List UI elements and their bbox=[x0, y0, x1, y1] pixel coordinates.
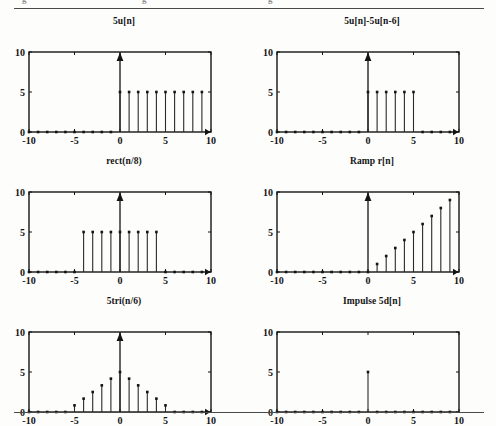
clipped-header-fragment-3: g bbox=[268, 0, 273, 4]
plot-grid: 5u[n] 0510-10-50510 5u[n]-5u[n-6] 0510-1… bbox=[0, 14, 496, 426]
stem-marker bbox=[294, 271, 297, 274]
stem-marker bbox=[82, 231, 85, 234]
x-tick-label: -10 bbox=[22, 275, 35, 286]
stem-marker bbox=[146, 231, 149, 234]
stem-marker bbox=[28, 271, 31, 274]
stem-marker bbox=[46, 131, 49, 134]
stem-plot-plot-5un: 0510-10-50510 bbox=[0, 28, 248, 154]
figure-page: g g g 5u[n] 0510-10-50510 5u[n]-5u[n-6] … bbox=[0, 0, 496, 426]
plot-canvas-1: 0510-10-50510 bbox=[248, 28, 496, 158]
stem-marker bbox=[312, 131, 315, 134]
stem-marker bbox=[430, 215, 433, 218]
stem-marker bbox=[55, 271, 58, 274]
plot-row-3: 5tri(n/6) 0510-10-50510 Impulse 5d[n] 05… bbox=[0, 294, 496, 426]
stem-series bbox=[276, 371, 452, 414]
stem-marker bbox=[376, 91, 379, 94]
stem-plot-plot-5un-minus-5un6: 0510-10-50510 bbox=[248, 28, 496, 154]
stem-marker bbox=[46, 271, 49, 274]
stem-marker bbox=[146, 391, 149, 394]
x-tick-label: 5 bbox=[411, 415, 416, 426]
stem-marker bbox=[164, 404, 167, 407]
stem-series bbox=[28, 371, 204, 414]
stem-marker bbox=[403, 239, 406, 242]
stem-marker bbox=[421, 223, 424, 226]
x-tick-label: 5 bbox=[163, 415, 168, 426]
y-tick-label: 5 bbox=[268, 367, 273, 378]
plot-cell-5: Impulse 5d[n] 0510-10-50510 bbox=[248, 294, 496, 426]
x-tick-label: -5 bbox=[318, 275, 326, 286]
stem-marker bbox=[28, 131, 31, 134]
stem-marker bbox=[73, 404, 76, 407]
stem-plot-plot-ramp-rn: 0510-10-50510 bbox=[248, 168, 496, 294]
plot-title-2: rect(n/8) bbox=[0, 156, 248, 166]
stem-marker bbox=[367, 271, 370, 274]
stem-marker bbox=[430, 131, 433, 134]
stem-marker bbox=[394, 91, 397, 94]
stem-series bbox=[276, 91, 452, 134]
stem-marker bbox=[321, 271, 324, 274]
stem-marker bbox=[276, 131, 279, 134]
plot-title-5: Impulse 5d[n] bbox=[248, 296, 496, 306]
plot-cell-3: Ramp r[n] 0510-10-50510 bbox=[248, 154, 496, 294]
x-tick-label: 5 bbox=[411, 135, 416, 146]
stem-marker bbox=[285, 271, 288, 274]
stem-marker bbox=[155, 397, 158, 400]
stem-marker bbox=[146, 91, 149, 94]
stem-marker bbox=[82, 131, 85, 134]
stem-marker bbox=[376, 263, 379, 266]
x-tick-label: -10 bbox=[270, 275, 283, 286]
stem-marker bbox=[339, 271, 342, 274]
plot-cell-2: rect(n/8) 0510-10-50510 bbox=[0, 154, 248, 294]
stem-marker bbox=[73, 131, 76, 134]
stem-marker bbox=[110, 377, 113, 380]
stem-marker bbox=[403, 91, 406, 94]
y-tick-label: 10 bbox=[263, 327, 273, 338]
stem-marker bbox=[128, 377, 131, 380]
stem-marker bbox=[110, 231, 113, 234]
x-tick-label: -10 bbox=[22, 415, 35, 426]
stem-marker bbox=[367, 91, 370, 94]
y-tick-label: 5 bbox=[20, 227, 25, 238]
stem-marker bbox=[82, 397, 85, 400]
stem-series bbox=[28, 91, 204, 134]
stem-marker bbox=[285, 131, 288, 134]
stem-marker bbox=[128, 231, 131, 234]
y-tick-label: 5 bbox=[20, 367, 25, 378]
stem-marker bbox=[303, 131, 306, 134]
y-tick-label: 5 bbox=[268, 87, 273, 98]
stem-marker bbox=[164, 271, 167, 274]
stem-marker bbox=[330, 271, 333, 274]
stem-marker bbox=[449, 199, 452, 202]
x-tick-label: 10 bbox=[454, 415, 464, 426]
stem-marker bbox=[294, 131, 297, 134]
stem-plot-plot-5tri-n-6: 0510-10-50510 bbox=[0, 308, 248, 426]
stem-marker bbox=[37, 271, 40, 274]
x-tick-label: -10 bbox=[22, 135, 35, 146]
y-axis-arrowhead bbox=[117, 193, 124, 202]
stem-marker bbox=[449, 131, 452, 134]
x-tick-label: 0 bbox=[366, 415, 371, 426]
plot-cell-0: 5u[n] 0510-10-50510 bbox=[0, 14, 248, 154]
stem-marker bbox=[64, 271, 67, 274]
plot-row-2: rect(n/8) 0510-10-50510 Ramp r[n] 0510-1… bbox=[0, 154, 496, 294]
x-tick-label: -5 bbox=[318, 415, 326, 426]
stem-marker bbox=[330, 131, 333, 134]
stem-marker bbox=[182, 271, 185, 274]
plot-cell-4: 5tri(n/6) 0510-10-50510 bbox=[0, 294, 248, 426]
x-tick-label: 10 bbox=[206, 415, 216, 426]
y-tick-label: 10 bbox=[15, 187, 25, 198]
stem-marker bbox=[128, 91, 131, 94]
y-axis-arrowhead bbox=[365, 193, 372, 202]
clipped-header-text: g g g bbox=[0, 0, 496, 4]
stem-series bbox=[28, 231, 204, 274]
x-tick-label: 0 bbox=[366, 135, 371, 146]
stem-marker bbox=[358, 131, 361, 134]
stem-marker bbox=[412, 231, 415, 234]
x-tick-label: -5 bbox=[318, 135, 326, 146]
plot-canvas-5: 0510-10-50510 bbox=[248, 308, 496, 426]
y-axis-arrowhead bbox=[117, 53, 124, 62]
plot-row-1: 5u[n] 0510-10-50510 5u[n]-5u[n-6] 0510-1… bbox=[0, 14, 496, 154]
stem-marker bbox=[137, 231, 140, 234]
x-tick-label: 10 bbox=[454, 135, 464, 146]
stem-marker bbox=[91, 231, 94, 234]
